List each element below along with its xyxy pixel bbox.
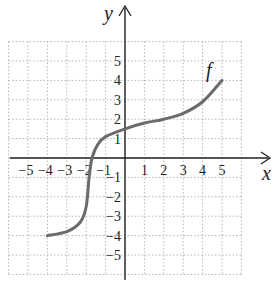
x-tick-label: 4 xyxy=(199,163,206,178)
x-axis-label: x xyxy=(261,162,271,184)
curve-label-f: f xyxy=(206,59,214,82)
axes xyxy=(10,6,270,280)
x-tick-label: −5 xyxy=(19,163,34,178)
x-tick-label: −4 xyxy=(38,163,53,178)
y-tick-label: 5 xyxy=(114,54,121,69)
x-tick-label: 2 xyxy=(160,163,167,178)
function-graph: −5−4−3−2−11234554321−1−2−3−4−5 y x f xyxy=(0,0,278,282)
y-tick-label: 2 xyxy=(114,112,121,127)
y-tick-label: −5 xyxy=(106,248,121,263)
y-tick-label: −3 xyxy=(106,209,121,224)
x-tick-label: 5 xyxy=(219,163,226,178)
y-tick-label: 3 xyxy=(114,93,121,108)
y-tick-label: −1 xyxy=(106,170,121,185)
plot-area: −5−4−3−2−11234554321−1−2−3−4−5 y x f xyxy=(0,0,278,282)
y-tick-label: −4 xyxy=(106,229,121,244)
x-tick-label: 1 xyxy=(141,163,148,178)
y-tick-label: −2 xyxy=(106,190,121,205)
y-axis-label: y xyxy=(102,2,113,25)
x-tick-label: −3 xyxy=(57,163,72,178)
y-tick-label: 4 xyxy=(114,73,121,88)
x-tick-label: 3 xyxy=(180,163,187,178)
